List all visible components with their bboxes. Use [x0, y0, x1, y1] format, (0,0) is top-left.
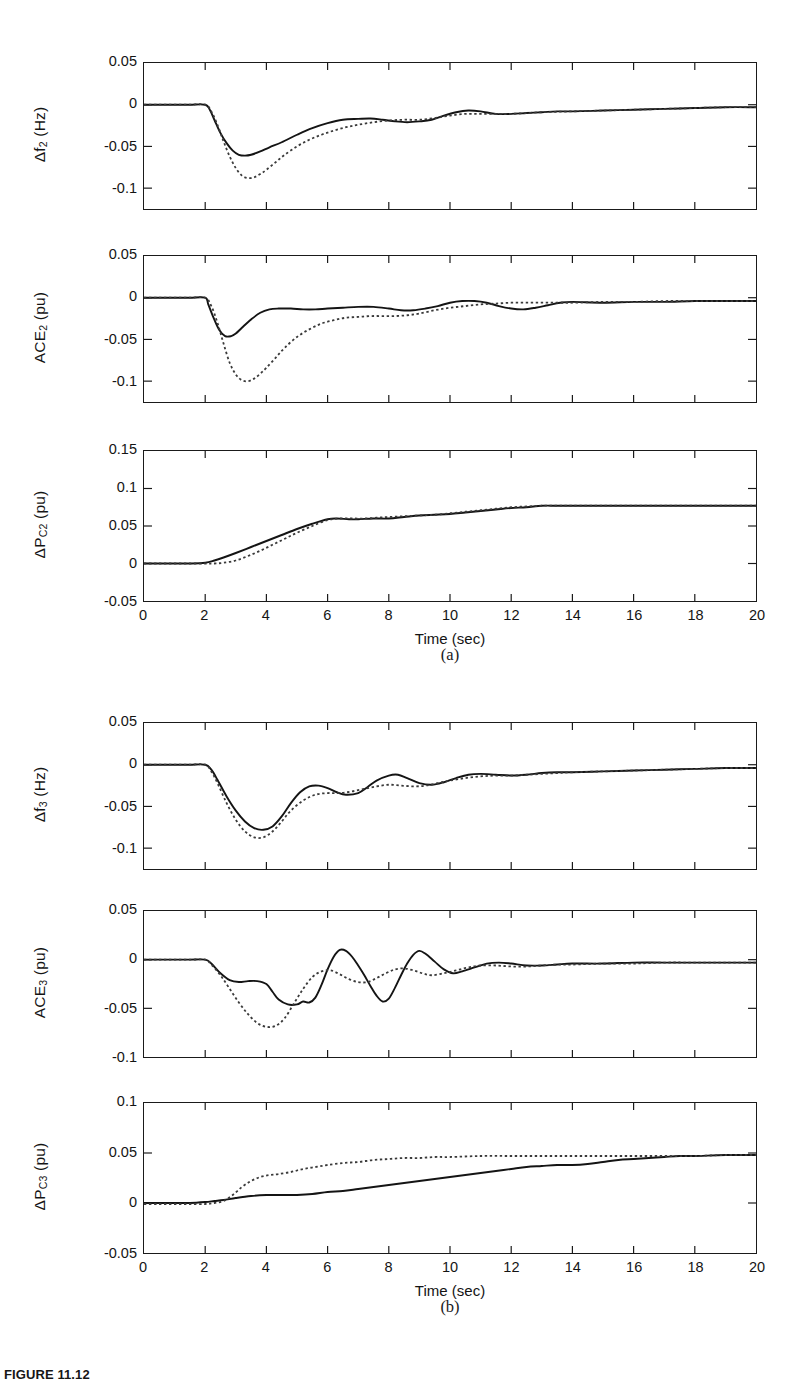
plot-canvas-pc2 — [144, 451, 756, 601]
plot-canvas-ace2 — [144, 256, 756, 402]
x-tick-label: 14 — [553, 607, 593, 623]
plot-canvas-pc3 — [144, 1103, 756, 1253]
x-axis-ticks-pc3: 02468101214161820 — [143, 1259, 757, 1279]
figure-caption: FIGURE 11.12 — [4, 1367, 90, 1382]
y-tick-label: 0.15 — [67, 441, 137, 457]
plot-canvas-ace3 — [144, 911, 756, 1057]
x-tick-label: 20 — [737, 607, 777, 623]
x-tick-label: 20 — [737, 1259, 777, 1275]
y-axis-label-pc3: ΔPC3 (pu) — [31, 1091, 50, 1261]
x-tick-label: 6 — [307, 607, 347, 623]
trace-ace2-solid — [144, 297, 756, 336]
x-axis-ticks-pc2: 02468101214161820 — [143, 607, 757, 627]
x-tick-label: 8 — [369, 1259, 409, 1275]
trace-df3-dotted — [144, 764, 756, 838]
y-axis-ticks-df2: 0.050-0.05-0.1 — [63, 62, 137, 210]
x-tick-label: 10 — [430, 607, 470, 623]
y-tick-label: 0 — [67, 755, 137, 771]
x-tick-label: 16 — [614, 1259, 654, 1275]
x-tick-label: 10 — [430, 1259, 470, 1275]
plot-area-pc2 — [143, 450, 757, 602]
y-tick-label: 0.05 — [67, 53, 137, 69]
y-axis-ticks-df3: 0.050-0.05-0.1 — [63, 722, 137, 870]
y-tick-label: 0 — [67, 95, 137, 111]
x-tick-label: 2 — [184, 607, 224, 623]
y-axis-label-pc2: ΔPC2 (pu) — [31, 439, 50, 609]
x-tick-label: 18 — [676, 607, 716, 623]
y-tick-label: -0.05 — [67, 1000, 137, 1016]
y-tick-label: 0.1 — [67, 1093, 137, 1109]
y-axis-ticks-pc3: 0.10.050-0.05 — [63, 1102, 137, 1254]
y-axis-label-text: ΔPC2 (pu) — [31, 491, 48, 559]
trace-pc3-dotted — [144, 1155, 756, 1204]
y-tick-label: -0.05 — [67, 138, 137, 154]
y-tick-label: 0 — [67, 555, 137, 571]
y-axis-label-text: ΔPC3 (pu) — [31, 1143, 48, 1211]
trace-ace2-dotted — [144, 297, 756, 381]
y-axis-label-text: Δf2 (Hz) — [31, 107, 48, 163]
plot-canvas-df2 — [144, 63, 756, 209]
trace-pc2-solid — [144, 506, 756, 564]
y-tick-label: 0.05 — [67, 901, 137, 917]
y-axis-label-df2: Δf2 (Hz) — [31, 49, 50, 219]
y-axis-label-text: Δf3 (Hz) — [31, 767, 48, 823]
trace-ace3-dotted — [144, 959, 756, 1027]
y-axis-label-ace2: ACE2 (pu) — [31, 242, 50, 412]
x-tick-label: 6 — [307, 1259, 347, 1275]
y-tick-label: -0.05 — [67, 798, 137, 814]
x-tick-label: 2 — [184, 1259, 224, 1275]
trace-df2-dotted — [144, 104, 756, 178]
plot-area-ace3 — [143, 910, 757, 1058]
y-axis-label-df3: Δf3 (Hz) — [31, 709, 50, 879]
y-tick-label: -0.1 — [67, 180, 137, 196]
subfigure-caption-b: (b) — [143, 1297, 757, 1317]
x-tick-label: 16 — [614, 607, 654, 623]
figure-11-12: 0.050-0.05-0.1Δf2 (Hz)0.050-0.05-0.1ACE2… — [0, 0, 799, 1382]
y-tick-label: 0 — [67, 950, 137, 966]
x-tick-label: 18 — [676, 1259, 716, 1275]
y-axis-ticks-ace3: 0.050-0.05-0.1 — [63, 910, 137, 1058]
x-tick-label: 4 — [246, 607, 286, 623]
y-axis-label-text: ACE2 (pu) — [31, 292, 48, 363]
trace-pc3-solid — [144, 1155, 756, 1203]
plot-area-df2 — [143, 62, 757, 210]
y-tick-label: 0.05 — [67, 1144, 137, 1160]
x-tick-label: 12 — [491, 1259, 531, 1275]
y-axis-label-ace3: ACE3 (pu) — [31, 897, 50, 1067]
y-tick-label: -0.05 — [67, 331, 137, 347]
y-axis-label-text: ACE3 (pu) — [31, 947, 48, 1018]
y-tick-label: 0.05 — [67, 713, 137, 729]
plot-area-df3 — [143, 722, 757, 870]
x-tick-label: 14 — [553, 1259, 593, 1275]
plot-canvas-df3 — [144, 723, 756, 869]
y-tick-label: 0.05 — [67, 517, 137, 533]
x-tick-label: 12 — [491, 607, 531, 623]
x-tick-label: 0 — [123, 607, 163, 623]
plot-area-ace2 — [143, 255, 757, 403]
y-tick-label: 0.1 — [67, 479, 137, 495]
trace-df2-solid — [144, 104, 756, 155]
x-tick-label: 4 — [246, 1259, 286, 1275]
y-tick-label: -0.1 — [67, 1049, 137, 1065]
y-tick-label: 0.05 — [67, 246, 137, 262]
y-tick-label: -0.1 — [67, 373, 137, 389]
x-tick-label: 0 — [123, 1259, 163, 1275]
trace-ace3-solid — [144, 949, 756, 1004]
plot-area-pc3 — [143, 1102, 757, 1254]
y-tick-label: 0 — [67, 288, 137, 304]
y-axis-ticks-pc2: 0.150.10.050-0.05 — [63, 450, 137, 602]
y-tick-label: -0.1 — [67, 840, 137, 856]
y-tick-label: 0 — [67, 1194, 137, 1210]
y-axis-ticks-ace2: 0.050-0.05-0.1 — [63, 255, 137, 403]
subfigure-caption-a: (a) — [143, 645, 757, 665]
x-tick-label: 8 — [369, 607, 409, 623]
